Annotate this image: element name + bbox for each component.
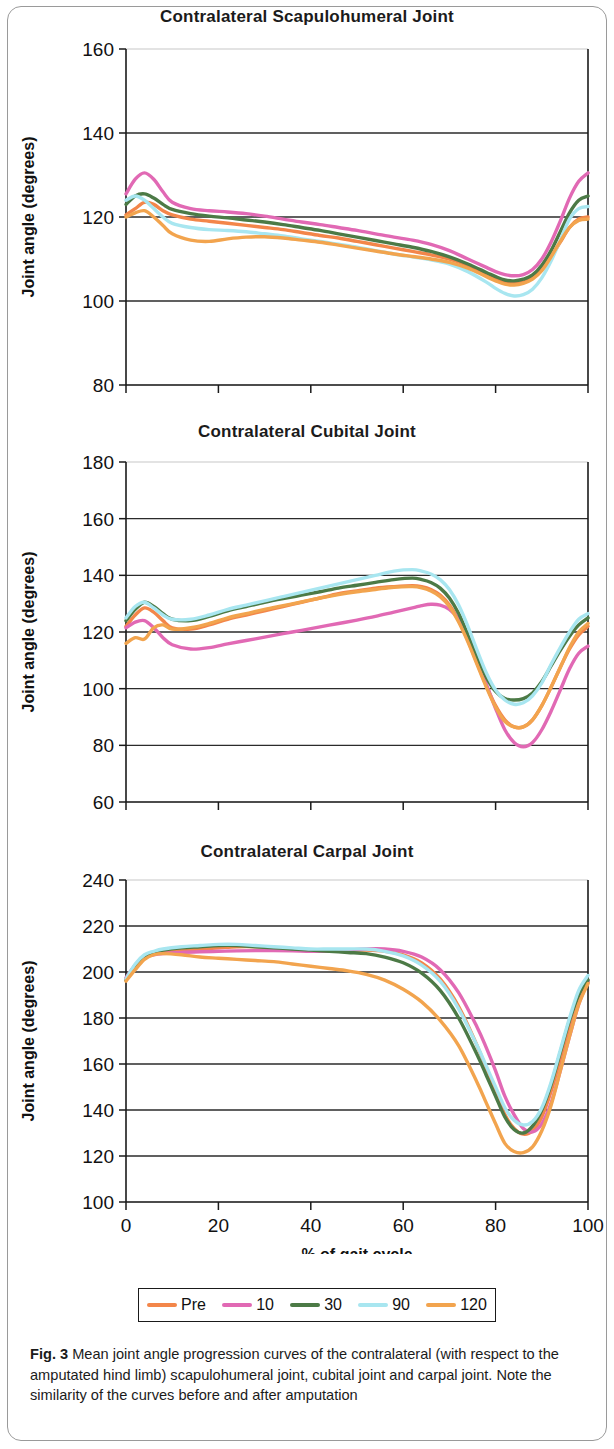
- legend-swatch-icon: [358, 1303, 388, 1307]
- chart-svg: 80100120140160Joint angle (degrees): [8, 27, 607, 422]
- x-tick-label: 100: [572, 1215, 604, 1236]
- y-tick-label: 100: [82, 679, 114, 700]
- x-tick-label: 40: [300, 1215, 321, 1236]
- figure-card: Contralateral Scapulohumeral Joint 80100…: [7, 6, 607, 1441]
- chart-title-cubital: Contralateral Cubital Joint: [8, 422, 606, 442]
- chart-svg: 100120140160180200220240020406080100Join…: [8, 862, 607, 1254]
- y-tick-label: 140: [82, 565, 114, 586]
- y-tick-label: 140: [82, 1100, 114, 1121]
- series-line-120: [126, 587, 588, 728]
- series-line-10: [126, 173, 588, 276]
- y-tick-label: 120: [82, 207, 114, 228]
- series-line-30: [126, 194, 588, 281]
- y-tick-label: 180: [82, 452, 114, 473]
- x-tick-label: 20: [208, 1215, 229, 1236]
- y-tick-label: 120: [82, 1146, 114, 1167]
- y-tick-label: 100: [82, 291, 114, 312]
- legend-swatch-icon: [290, 1303, 320, 1307]
- y-tick-label: 220: [82, 916, 114, 937]
- chart-panel-scapulohumeral: Contralateral Scapulohumeral Joint 80100…: [8, 7, 606, 422]
- legend-entry-30: 30: [290, 1296, 342, 1314]
- chart-canvas-scapulohumeral: 80100120140160Joint angle (degrees): [8, 27, 606, 422]
- x-tick-label: 80: [485, 1215, 506, 1236]
- chart-svg: 6080100120140160180Joint angle (degrees): [8, 442, 607, 842]
- figure-label: Fig. 3: [30, 1346, 68, 1362]
- y-axis-title: Joint angle (degrees): [20, 961, 37, 1122]
- y-tick-label: 160: [82, 509, 114, 530]
- y-tick-label: 200: [82, 962, 114, 983]
- legend-label: 120: [460, 1296, 487, 1314]
- legend-label: 10: [256, 1296, 274, 1314]
- legend-label: Pre: [181, 1296, 206, 1314]
- figure-caption-text: Mean joint angle progression curves of t…: [30, 1346, 559, 1403]
- y-tick-label: 160: [82, 39, 114, 60]
- x-axis-title: % of gait cycle: [301, 1246, 412, 1254]
- y-tick-label: 80: [93, 375, 114, 396]
- y-tick-label: 240: [82, 870, 114, 891]
- y-axis-title: Joint angle (degrees): [20, 137, 37, 298]
- figure-caption: Fig. 3 Mean joint angle progression curv…: [30, 1344, 586, 1406]
- y-tick-label: 120: [82, 622, 114, 643]
- y-tick-label: 80: [93, 735, 114, 756]
- series-line-pre: [126, 947, 588, 1135]
- y-tick-label: 160: [82, 1054, 114, 1075]
- legend-entry-90: 90: [358, 1296, 410, 1314]
- chart-legend: Pre103090120: [138, 1288, 496, 1322]
- legend-swatch-icon: [426, 1303, 456, 1307]
- chart-panel-carpal: Contralateral Carpal Joint 1001201401601…: [8, 842, 606, 1254]
- legend-label: 90: [392, 1296, 410, 1314]
- series-line-pre: [126, 586, 588, 728]
- y-tick-label: 60: [93, 792, 114, 813]
- series-line-10: [126, 949, 588, 1132]
- chart-canvas-cubital: 6080100120140160180Joint angle (degrees): [8, 442, 606, 842]
- legend-entry-120: 120: [426, 1296, 487, 1314]
- series-line-30: [126, 578, 588, 700]
- legend-label: 30: [324, 1296, 342, 1314]
- y-tick-label: 140: [82, 123, 114, 144]
- chart-title-scapulohumeral: Contralateral Scapulohumeral Joint: [8, 7, 606, 27]
- x-tick-label: 60: [393, 1215, 414, 1236]
- legend-entry-10: 10: [222, 1296, 274, 1314]
- legend-swatch-icon: [222, 1303, 252, 1307]
- x-tick-label: 0: [121, 1215, 132, 1236]
- y-axis-title: Joint angle (degrees): [20, 552, 37, 713]
- legend-swatch-icon: [147, 1303, 177, 1307]
- y-tick-label: 180: [82, 1008, 114, 1029]
- chart-canvas-carpal: 100120140160180200220240020406080100Join…: [8, 862, 606, 1254]
- y-tick-label: 100: [82, 1192, 114, 1213]
- legend-entry-pre: Pre: [147, 1296, 206, 1314]
- chart-title-carpal: Contralateral Carpal Joint: [8, 842, 606, 862]
- chart-panel-cubital: Contralateral Cubital Joint 608010012014…: [8, 422, 606, 842]
